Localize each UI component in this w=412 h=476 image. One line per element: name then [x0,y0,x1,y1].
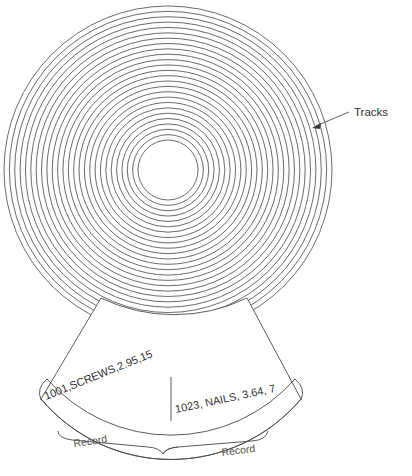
disk-center-hole [138,140,198,200]
tracks-label: Tracks [354,106,388,118]
tracks-callout-group [312,112,349,129]
figure-root: 1001,SCREWS,2.95,15 1023, NAILS, 3.64, 7… [0,0,412,476]
record-label-1: Record [73,432,108,449]
tracks-arrowhead-icon [312,123,321,129]
tracks-leader-line [316,112,349,126]
disk-tracks-diagram: 1001,SCREWS,2.95,15 1023, NAILS, 3.64, 7… [0,0,412,476]
